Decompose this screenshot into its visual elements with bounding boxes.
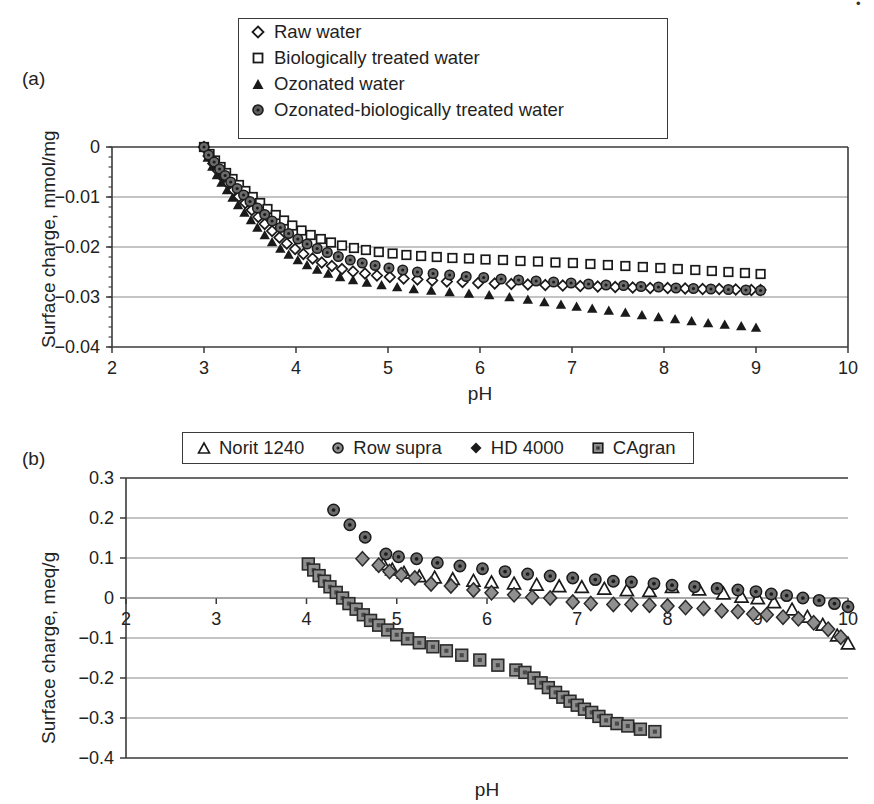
svg-text:0.1: 0.1: [89, 548, 114, 568]
panel-a-plot: 0−0.01−0.02−0.03−0.042345678910pH: [0, 0, 874, 420]
corner-mark: •: [856, 0, 861, 11]
svg-text:2: 2: [107, 358, 117, 378]
svg-text:7: 7: [572, 609, 582, 629]
svg-text:−0.04: −0.04: [54, 337, 100, 357]
svg-text:2: 2: [121, 609, 131, 629]
svg-text:6: 6: [475, 358, 485, 378]
svg-text:−0.02: −0.02: [54, 237, 100, 257]
svg-text:0.3: 0.3: [89, 468, 114, 488]
svg-text:−0.4: −0.4: [78, 748, 114, 768]
svg-text:0: 0: [90, 137, 100, 157]
svg-text:−0.03: −0.03: [54, 287, 100, 307]
svg-text:5: 5: [383, 358, 393, 378]
svg-text:−0.2: −0.2: [78, 668, 114, 688]
figure-container: (a) Surface charge, mmol/mg Raw water Bi…: [0, 0, 874, 804]
svg-text:−0.1: −0.1: [78, 628, 114, 648]
panel-b-plot: 0.30.20.10−0.1−0.2−0.3−0.42345678910pH: [0, 400, 874, 804]
svg-text:6: 6: [482, 609, 492, 629]
svg-text:4: 4: [301, 609, 311, 629]
svg-text:3: 3: [199, 358, 209, 378]
svg-text:−0.3: −0.3: [78, 708, 114, 728]
svg-text:0: 0: [104, 588, 114, 608]
svg-text:9: 9: [751, 358, 761, 378]
svg-text:pH: pH: [475, 779, 499, 800]
svg-text:8: 8: [659, 358, 669, 378]
svg-text:10: 10: [838, 358, 858, 378]
svg-text:0.2: 0.2: [89, 508, 114, 528]
svg-text:7: 7: [567, 358, 577, 378]
series-cagran: [302, 558, 660, 737]
svg-text:4: 4: [291, 358, 301, 378]
svg-text:−0.01: −0.01: [54, 187, 100, 207]
svg-text:3: 3: [211, 609, 221, 629]
